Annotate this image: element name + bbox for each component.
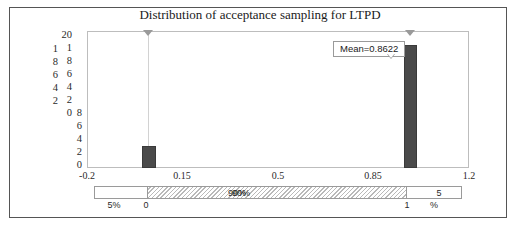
histogram-bar-0 bbox=[142, 146, 156, 168]
mean-callout-tail bbox=[387, 53, 395, 58]
chart-figure: Distribution of acceptance sampling for … bbox=[0, 0, 517, 228]
proportion-bar: 90% 90% 5 bbox=[94, 186, 462, 199]
proportion-right-bottom-label: % bbox=[419, 200, 449, 210]
ytick-secondary-2: 2 bbox=[60, 147, 82, 157]
right-marker-icon[interactable] bbox=[405, 30, 415, 36]
ytick-overlap-8: 8 bbox=[36, 57, 58, 67]
proportion-segment-left bbox=[95, 187, 147, 198]
left-marker-icon[interactable] bbox=[143, 30, 153, 36]
ytick-secondary-4: 4 bbox=[60, 134, 82, 144]
ytick-overlap-4: 4 bbox=[36, 83, 58, 93]
proportion-center-label-overlap: 90% bbox=[221, 188, 261, 198]
ytick-overlap-2: 2 bbox=[36, 96, 58, 106]
ytick-overlap-1: 1 bbox=[36, 44, 58, 54]
proportion-right-top-label: 5 bbox=[419, 188, 459, 198]
xtick-1: 0.15 bbox=[162, 170, 202, 181]
histogram-bar-1 bbox=[404, 45, 417, 168]
xtick-0: -0.2 bbox=[67, 170, 107, 181]
xtick-4: 1.2 bbox=[449, 170, 489, 181]
proportion-segment-center bbox=[147, 187, 407, 198]
ytick-primary-20: 20 bbox=[50, 30, 72, 40]
xtick-3: 0.85 bbox=[353, 170, 393, 181]
xtick-2: 0.5 bbox=[258, 170, 298, 181]
ytick-overlap-6: 6 bbox=[36, 70, 58, 80]
proportion-right-bound: 1 bbox=[392, 200, 422, 210]
ytick-secondary-6: 6 bbox=[60, 121, 82, 131]
left-marker-dropline bbox=[148, 34, 149, 147]
ytick-secondary-0: 0 bbox=[60, 160, 82, 170]
proportion-left-label: 5% bbox=[99, 200, 129, 210]
proportion-left-bound: 0 bbox=[131, 200, 161, 210]
chart-title: Distribution of acceptance sampling for … bbox=[60, 7, 460, 23]
ytick-secondary-8: 8 bbox=[60, 108, 82, 118]
